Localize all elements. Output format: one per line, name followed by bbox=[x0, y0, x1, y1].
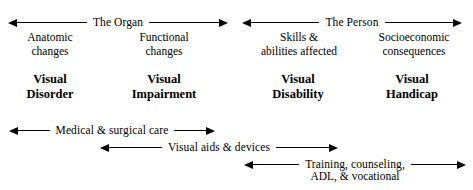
stage-line-1: Visual bbox=[360, 72, 464, 87]
descriptor-socioeconomic-consequences: Socioeconomic consequences bbox=[358, 31, 470, 58]
arrow-label-medical-surgical-care: Medical & surgical care bbox=[50, 124, 175, 137]
descriptor-anatomic-changes: Anatomic changes bbox=[4, 31, 96, 58]
stage-visual-disability: Visual Disability bbox=[246, 72, 350, 101]
stage-visual-impairment: Visual Impairment bbox=[112, 72, 216, 101]
arrow-label-visual-aids-devices: Visual aids & devices bbox=[162, 141, 276, 154]
arrow-shaft bbox=[149, 22, 219, 23]
descriptor-line-1: Functional bbox=[118, 31, 210, 45]
stage-line-2: Disorder bbox=[4, 87, 96, 102]
descriptor-line-1: Anatomic bbox=[4, 31, 96, 45]
arrow-right-head-icon bbox=[329, 144, 338, 152]
arrow-shaft bbox=[385, 22, 453, 23]
arrow-shaft bbox=[251, 22, 319, 23]
arrow-right-head-icon bbox=[206, 127, 215, 135]
arrow-shaft bbox=[109, 147, 162, 148]
descriptor-skills-abilities-affected: Skills & abilities affected bbox=[243, 31, 355, 58]
arrow-label-the-organ: The Organ bbox=[87, 16, 149, 29]
arrow-label-the-person: The Person bbox=[319, 16, 384, 29]
arrow-shaft bbox=[276, 147, 329, 148]
arrow-the-person: The Person bbox=[242, 16, 462, 29]
arrow-left-head-icon bbox=[8, 19, 17, 27]
descriptor-line-2: consequences bbox=[358, 45, 470, 59]
arrow-left-head-icon bbox=[242, 19, 251, 27]
stage-visual-disorder: Visual Disorder bbox=[4, 72, 96, 101]
arrow-shaft bbox=[174, 130, 206, 131]
stage-line-2: Impairment bbox=[112, 87, 216, 102]
arrow-shaft bbox=[253, 164, 299, 165]
stage-visual-handicap: Visual Handicap bbox=[360, 72, 464, 101]
arrow-medical-surgical-care: Medical & surgical care bbox=[9, 124, 215, 137]
arrow-left-head-icon bbox=[244, 161, 253, 169]
arrow-right-head-icon bbox=[453, 19, 462, 27]
arrow-visual-aids-devices: Visual aids & devices bbox=[100, 141, 338, 154]
arrow-left-head-icon bbox=[100, 144, 109, 152]
stage-line-1: Visual bbox=[246, 72, 350, 87]
arrow-the-organ: The Organ bbox=[8, 16, 228, 29]
descriptor-line-2: abilities affected bbox=[243, 45, 355, 59]
stage-line-2: Handicap bbox=[360, 87, 464, 102]
stage-line-1: Visual bbox=[112, 72, 216, 87]
visual-impairment-continuum-diagram: The Organ The Person Anatomic changes Fu… bbox=[0, 0, 473, 190]
descriptor-line-2: changes bbox=[4, 45, 96, 59]
descriptor-line-1: Socioeconomic bbox=[358, 31, 470, 45]
stage-line-2: Disability bbox=[246, 87, 350, 102]
descriptor-line-1: Skills & bbox=[243, 31, 355, 45]
arrow-shaft bbox=[18, 130, 50, 131]
descriptor-line-2: changes bbox=[118, 45, 210, 59]
arrow-right-head-icon bbox=[219, 19, 228, 27]
descriptor-functional-changes: Functional changes bbox=[118, 31, 210, 58]
arrow-left-head-icon bbox=[9, 127, 18, 135]
arrow-right-head-icon bbox=[457, 161, 466, 169]
stage-line-1: Visual bbox=[4, 72, 96, 87]
arrow-shaft bbox=[17, 22, 87, 23]
arrow-shaft bbox=[411, 164, 457, 165]
arrow-label-adl-vocational: ADL, & vocational bbox=[244, 170, 466, 183]
